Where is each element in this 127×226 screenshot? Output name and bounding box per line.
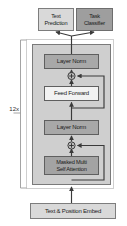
wire-to-text-prediction: [56, 32, 72, 36]
node-feed-forward[interactable]: Feed Forward: [44, 86, 99, 101]
node-layer-norm-top[interactable]: Layer Norm: [44, 54, 99, 69]
transformer-decoder-diagram: Text Prediction Task Classifier Layer No…: [0, 0, 127, 226]
node-layer-norm-top-label: Layer Norm: [45, 58, 98, 64]
node-masked-multi-self-attention[interactable]: Masked Multi Self Attention: [44, 156, 99, 175]
node-layer-norm-bottom-label: Layer Norm: [45, 124, 98, 130]
node-task-classifier[interactable]: Task Classifier: [76, 8, 113, 31]
node-task-classifier-label: Task Classifier: [77, 13, 112, 25]
node-layer-norm-bottom[interactable]: Layer Norm: [44, 120, 99, 135]
node-text-position-embed[interactable]: Text & Position Embed: [30, 203, 116, 219]
node-text-position-embed-label: Text & Position Embed: [31, 208, 115, 214]
repeat-count-label: 12x: [2, 106, 19, 112]
node-feed-forward-label: Feed Forward: [45, 90, 98, 96]
node-text-prediction[interactable]: Text Prediction: [38, 8, 74, 31]
wire-to-task-classifier: [72, 32, 95, 36]
node-masked-multi-self-attention-label: Masked Multi Self Attention: [45, 159, 98, 171]
node-text-prediction-label: Text Prediction: [39, 13, 73, 25]
